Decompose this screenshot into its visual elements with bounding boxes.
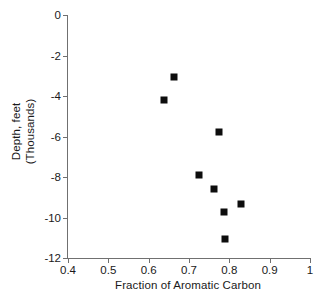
y-axis-tick-label: -12 bbox=[44, 252, 61, 264]
data-point bbox=[215, 129, 222, 136]
x-axis-tick bbox=[229, 258, 230, 263]
x-axis-tick bbox=[149, 258, 150, 263]
data-point bbox=[221, 209, 228, 216]
y-axis-title-line-1: Depth, feet bbox=[11, 98, 25, 164]
y-axis-tick bbox=[63, 177, 68, 178]
y-axis-tick bbox=[63, 96, 68, 97]
scatter-chart-figure: Depth, feet (Thousands) 0-2-4-6-8-10-120… bbox=[0, 0, 325, 301]
y-axis-tick-label: -10 bbox=[44, 212, 61, 224]
data-point bbox=[238, 200, 245, 207]
y-axis-tick-label: -2 bbox=[51, 50, 61, 62]
x-axis-tick-label: 0.4 bbox=[60, 264, 76, 276]
y-axis-tick bbox=[63, 15, 68, 16]
x-axis-tick bbox=[310, 258, 311, 263]
x-axis-tick bbox=[68, 258, 69, 263]
y-axis-tick bbox=[63, 218, 68, 219]
data-point bbox=[171, 73, 178, 80]
x-axis-tick-label: 0.9 bbox=[262, 264, 278, 276]
data-point bbox=[196, 171, 203, 178]
x-axis-tick bbox=[189, 258, 190, 263]
plot-area: 0-2-4-6-8-10-120.40.50.60.70.80.91 bbox=[67, 15, 310, 259]
data-point bbox=[160, 97, 167, 104]
y-axis-title-line-2: (Thousands) bbox=[24, 98, 38, 164]
y-axis-tick-label: 0 bbox=[55, 9, 61, 21]
y-axis-title: Depth, feet (Thousands) bbox=[0, 0, 48, 262]
y-axis-tick-label: -8 bbox=[51, 171, 61, 183]
x-axis-tick-label: 0.5 bbox=[100, 264, 116, 276]
y-axis-tick bbox=[63, 137, 68, 138]
x-axis-tick-label: 1 bbox=[307, 264, 313, 276]
x-axis-tick bbox=[270, 258, 271, 263]
x-axis-tick bbox=[108, 258, 109, 263]
data-point bbox=[221, 235, 228, 242]
y-axis-tick bbox=[63, 56, 68, 57]
y-axis-tick-label: -6 bbox=[51, 131, 61, 143]
x-axis-title: Fraction of Aromatic Carbon bbox=[67, 279, 309, 291]
x-axis-tick-label: 0.8 bbox=[221, 264, 237, 276]
y-axis-tick-label: -4 bbox=[51, 90, 61, 102]
x-axis-tick-label: 0.6 bbox=[141, 264, 157, 276]
data-point bbox=[211, 185, 218, 192]
x-axis-tick-label: 0.7 bbox=[181, 264, 197, 276]
